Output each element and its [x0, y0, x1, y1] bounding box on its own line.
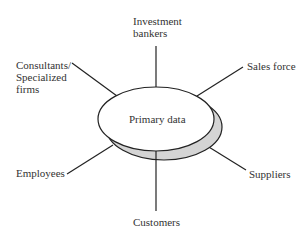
label-investment-bankers: Investment bankers	[133, 15, 182, 39]
connector-sales-force	[197, 67, 243, 96]
connector-suppliers	[204, 144, 246, 170]
connector-consultants	[72, 63, 117, 96]
label-consultants: Consultants/ Specialized firms	[16, 59, 71, 95]
label-suppliers: Suppliers	[249, 168, 291, 180]
center-label: Primary data	[129, 113, 186, 125]
connector-employees	[67, 145, 113, 174]
label-customers: Customers	[133, 216, 180, 228]
primary-data-sources-diagram: Primary data Investment bankers Consulta…	[0, 0, 306, 238]
label-employees: Employees	[16, 167, 65, 179]
label-sales-force: Sales force	[247, 60, 296, 72]
